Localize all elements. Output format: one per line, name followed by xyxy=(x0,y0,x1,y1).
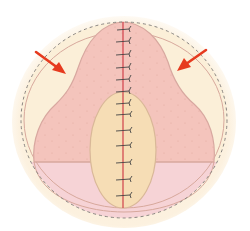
surgical-diagram xyxy=(0,0,250,231)
diagram-svg xyxy=(0,0,250,231)
